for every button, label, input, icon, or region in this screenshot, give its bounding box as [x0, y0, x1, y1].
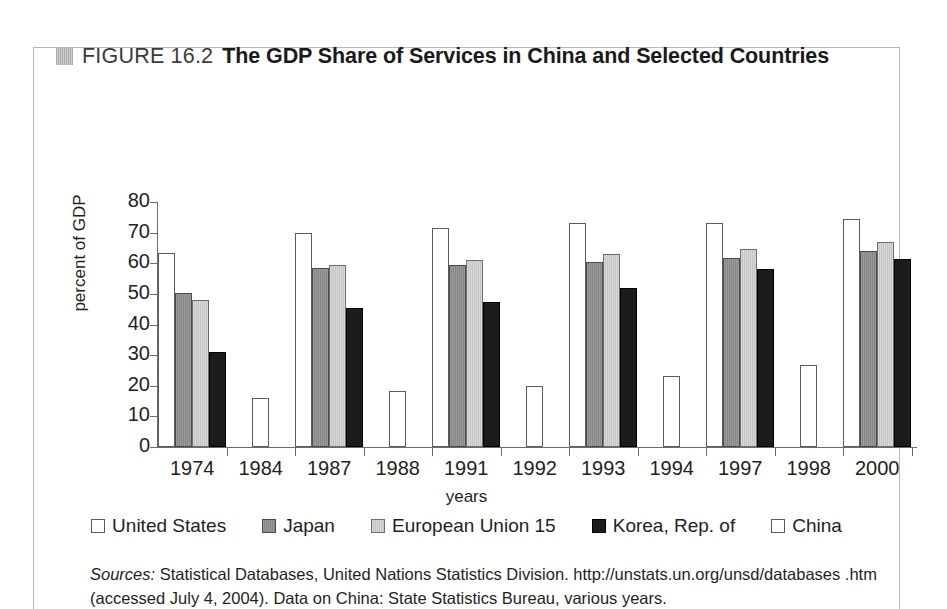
bar: [209, 352, 226, 447]
legend-label: China: [792, 515, 842, 537]
bar: [723, 258, 740, 447]
legend-item: Japan: [262, 515, 335, 537]
x-tick-label: 1991: [432, 457, 501, 480]
bar: [877, 242, 894, 447]
bar-group: [775, 202, 844, 447]
bar: [252, 398, 269, 447]
legend-swatch: [771, 519, 785, 533]
x-tick-label: 1997: [706, 457, 775, 480]
x-tick-mark: [912, 448, 913, 456]
y-tick-label: 20: [110, 374, 150, 394]
y-tick-mark: [150, 233, 157, 234]
y-tick-mark: [150, 355, 157, 356]
bar-group: [569, 202, 638, 447]
y-tick-mark: [150, 386, 157, 387]
x-tick-mark: [569, 448, 570, 456]
bar-group: [364, 202, 433, 447]
sources-label: Sources:: [90, 565, 155, 583]
bar: [526, 386, 543, 447]
bar: [569, 223, 586, 447]
bar-group: [843, 202, 912, 447]
bar: [860, 251, 877, 447]
y-tick-label: 70: [110, 221, 150, 241]
x-tick-mark: [638, 448, 639, 456]
bar: [329, 265, 346, 447]
legend-item: China: [771, 515, 842, 537]
y-tick-mark: [150, 294, 157, 295]
bar-group: [227, 202, 296, 447]
y-tick-mark: [150, 202, 157, 203]
x-tick-mark: [364, 448, 365, 456]
bar: [843, 219, 860, 447]
legend-item: European Union 15: [371, 515, 556, 537]
bar: [432, 228, 449, 447]
bar: [620, 288, 637, 447]
bar: [466, 260, 483, 447]
chart-legend: United StatesJapanEuropean Union 15Korea…: [33, 515, 900, 537]
x-tick-mark: [227, 448, 228, 456]
bar: [389, 391, 406, 447]
x-axis-line: [157, 447, 917, 448]
y-axis-title: percent of GDP: [70, 158, 90, 348]
x-axis-title: years: [33, 487, 900, 507]
sources-text: Statistical Databases, United Nations St…: [90, 565, 877, 607]
bar-group: [432, 202, 501, 447]
y-tick-mark: [150, 447, 157, 448]
bar-group: [501, 202, 570, 447]
bar: [740, 249, 757, 447]
bar: [757, 269, 774, 447]
x-tick-label: 1998: [775, 457, 844, 480]
x-tick-label: 1994: [638, 457, 707, 480]
legend-swatch: [592, 519, 606, 533]
bar: [706, 223, 723, 447]
legend-item: Korea, Rep. of: [592, 515, 736, 537]
bar-group: [706, 202, 775, 447]
sources-line: Sources: Statistical Databases, United N…: [90, 563, 880, 609]
bar: [483, 302, 500, 447]
plot-area: [158, 202, 912, 447]
bar: [192, 300, 209, 447]
legend-item: United States: [91, 515, 226, 537]
x-tick-label: 1988: [364, 457, 433, 480]
bar: [346, 308, 363, 447]
y-tick-mark: [150, 263, 157, 264]
x-tick-label: 2000: [843, 457, 912, 480]
bar: [158, 253, 175, 447]
x-tick-label: 1984: [227, 457, 296, 480]
bar: [586, 262, 603, 447]
bar: [175, 293, 192, 447]
x-tick-label: 1974: [158, 457, 227, 480]
chart-container: percent of GDP 01020304050607080 1974198…: [33, 47, 900, 609]
bar: [449, 265, 466, 447]
y-tick-mark: [150, 416, 157, 417]
x-tick-mark: [432, 448, 433, 456]
y-tick-label: 30: [110, 343, 150, 363]
legend-label: United States: [112, 515, 226, 537]
legend-label: Japan: [283, 515, 335, 537]
y-tick-mark: [150, 325, 157, 326]
bar-group: [158, 202, 227, 447]
bar: [295, 233, 312, 447]
y-tick-label: 0: [110, 435, 150, 455]
legend-label: Korea, Rep. of: [613, 515, 736, 537]
bar-group: [295, 202, 364, 447]
bar: [800, 365, 817, 447]
y-tick-label: 50: [110, 282, 150, 302]
x-tick-label: 1993: [569, 457, 638, 480]
y-tick-label: 40: [110, 313, 150, 333]
x-tick-mark: [843, 448, 844, 456]
bar: [312, 268, 329, 447]
bar: [894, 259, 911, 447]
legend-swatch: [371, 519, 385, 533]
bar-group: [638, 202, 707, 447]
figure-notes: Sources: Statistical Databases, United N…: [90, 563, 880, 609]
legend-label: European Union 15: [392, 515, 556, 537]
bar: [663, 376, 680, 447]
x-tick-label: 1992: [501, 457, 570, 480]
x-tick-mark: [706, 448, 707, 456]
y-tick-label: 60: [110, 251, 150, 271]
y-tick-label: 10: [110, 404, 150, 424]
legend-swatch: [91, 519, 105, 533]
bar: [603, 254, 620, 447]
x-tick-label: 1987: [295, 457, 364, 480]
